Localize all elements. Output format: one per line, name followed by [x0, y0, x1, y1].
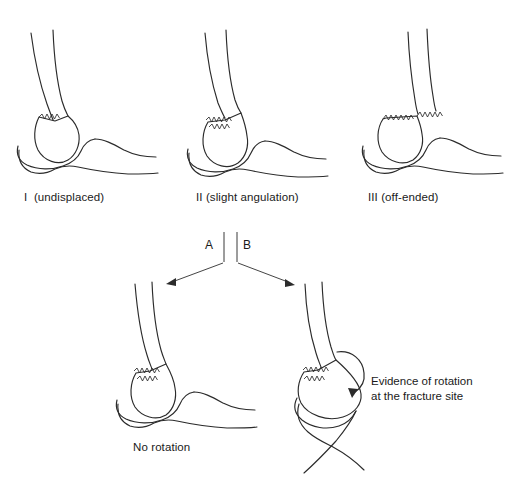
branch-arrow-a-line	[172, 263, 223, 282]
fracture-diagram-svg	[0, 0, 525, 483]
humerus-posterior-cortex-a	[152, 282, 166, 364]
radius-upper-2	[265, 141, 326, 159]
elbow-diagram-type-2	[187, 30, 328, 177]
humerus-anterior-cortex-3	[408, 32, 418, 114]
annotation-line-1: Evidence of rotation	[371, 374, 473, 389]
humerus-anterior-cortex-1	[31, 33, 54, 122]
caption-type-3: III (off-ended)	[368, 190, 438, 205]
humerus-posterior-cortex-2	[226, 30, 241, 113]
capitellum-2	[203, 113, 248, 167]
branch-arrow-b-line	[238, 263, 288, 282]
humerus-anterior-cortex-b	[305, 284, 321, 367]
branch-connector	[166, 232, 295, 287]
capitellum-3	[378, 116, 423, 163]
humerus-posterior-cortex-1	[53, 30, 68, 116]
elbow-diagram-type-3	[362, 29, 503, 174]
humerus-posterior-cortex-b	[322, 282, 336, 360]
branch-label-a: A	[205, 238, 213, 252]
elbow-diagram-with-rotation	[295, 282, 364, 473]
elbow-diagram-no-rotation	[116, 282, 257, 428]
branch-arrow-b-head	[285, 279, 295, 287]
radius-upper-3	[440, 138, 501, 156]
humerus-anterior-cortex-2	[205, 33, 225, 118]
caption-type-2: II (slight angulation)	[196, 190, 299, 205]
elbow-diagram-type-1	[17, 30, 158, 174]
caption-no-rotation: No rotation	[133, 440, 190, 455]
annotation-line-2: at the fracture site	[371, 389, 473, 404]
radius-upper-a	[194, 392, 255, 410]
caption-type-1: I (undisplaced)	[24, 190, 104, 205]
radius-upper-1	[95, 139, 156, 157]
humerus-posterior-cortex-3	[427, 29, 436, 111]
capitellum-1	[35, 116, 79, 163]
fracture-line-3-shaft	[417, 112, 443, 117]
branch-label-b: B	[243, 238, 251, 252]
annotation-rotation-evidence: Evidence of rotation at the fracture sit…	[371, 374, 473, 403]
humerus-anterior-cortex-a	[135, 284, 152, 369]
capitellum-a	[131, 364, 176, 418]
figure-root: I (undisplaced) II (slight angulation) I…	[0, 0, 525, 483]
branch-arrow-a-head	[166, 278, 176, 286]
